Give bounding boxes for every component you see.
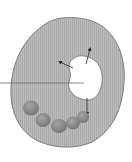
organelle-1 (23, 101, 39, 116)
cell-body (11, 18, 124, 147)
cell-diagram (0, 0, 132, 162)
vacuole (69, 56, 103, 100)
organelle-5 (77, 111, 89, 123)
organelle-3 (51, 119, 67, 133)
organelle-2 (36, 113, 51, 127)
